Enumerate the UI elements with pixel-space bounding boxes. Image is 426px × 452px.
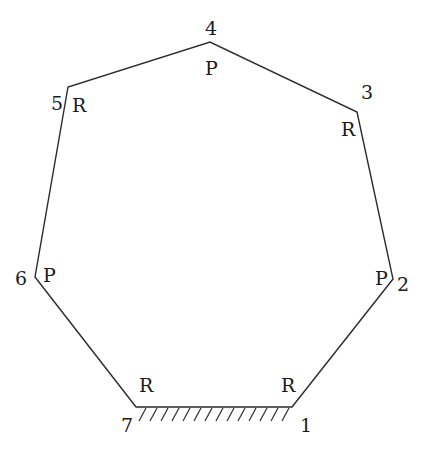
hatch-mark xyxy=(161,408,168,421)
ground-hatching xyxy=(139,408,289,421)
hatch-mark xyxy=(205,408,212,421)
hatch-mark xyxy=(271,408,278,421)
hatch-mark xyxy=(139,408,146,421)
vertex-number-5: 5 xyxy=(51,92,63,114)
vertex-number-7: 7 xyxy=(121,414,133,436)
joint-type-7: R xyxy=(139,374,154,396)
hatch-mark xyxy=(227,408,234,421)
joint-type-3: R xyxy=(341,118,356,140)
hatch-mark xyxy=(194,408,201,421)
vertex-number-4: 4 xyxy=(205,17,217,39)
hatch-mark xyxy=(260,408,267,421)
hatch-mark xyxy=(282,408,289,421)
hatch-mark xyxy=(238,408,245,421)
linkage-polygon xyxy=(35,42,393,407)
joint-type-1: R xyxy=(281,374,296,396)
vertex-number-1: 1 xyxy=(300,414,312,436)
hatch-mark xyxy=(183,408,190,421)
hatch-mark xyxy=(249,408,256,421)
hatch-mark xyxy=(216,408,223,421)
hatch-mark xyxy=(150,408,157,421)
linkage-diagram: 1R2P3R4P5R6P7R xyxy=(0,0,426,452)
vertex-number-6: 6 xyxy=(15,267,27,289)
vertex-labels: 1R2P3R4P5R6P7R xyxy=(15,17,409,436)
hatch-mark xyxy=(172,408,179,421)
joint-type-5: R xyxy=(72,94,87,116)
vertex-number-2: 2 xyxy=(397,273,409,295)
vertex-number-3: 3 xyxy=(361,81,373,103)
joint-type-2: P xyxy=(375,267,388,289)
joint-type-6: P xyxy=(43,264,56,286)
joint-type-4: P xyxy=(205,57,218,79)
